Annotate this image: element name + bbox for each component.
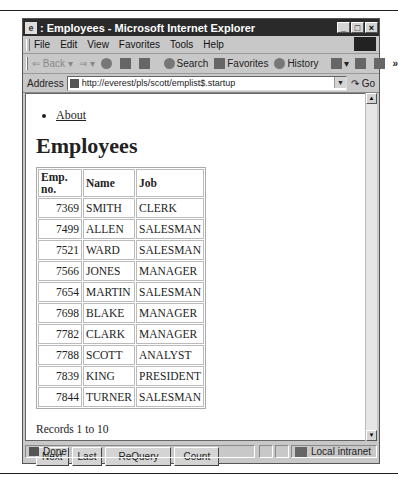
nav-list: About [26, 108, 365, 123]
edit-button[interactable] [374, 58, 387, 69]
search-icon [164, 58, 175, 69]
cell-name: KING [83, 366, 135, 386]
cell-job: ANALYST [136, 345, 204, 365]
table-header-row: Emp. no. Name Job [38, 169, 204, 197]
status-pane-blank [275, 445, 289, 458]
cell-empno: 7369 [38, 198, 82, 218]
cell-job: CLERK [136, 198, 204, 218]
search-button[interactable]: Search [164, 58, 209, 69]
intranet-zone-icon [295, 447, 307, 457]
back-button[interactable]: ⇐ Back ▾ [32, 58, 73, 69]
cell-job: SALESMAN [136, 219, 204, 239]
page-status-icon [29, 447, 39, 456]
table-row: 7698BLAKEMANAGER [38, 303, 204, 323]
cell-empno: 7844 [38, 387, 82, 407]
close-button[interactable]: × [365, 22, 378, 33]
cell-name: SCOTT [83, 345, 135, 365]
page-content: About Employees Emp. no. Name Job 7369SM… [25, 93, 365, 441]
mail-button[interactable]: ▾ [331, 58, 349, 69]
cell-job: MANAGER [136, 303, 204, 323]
status-pane: Done [25, 445, 255, 458]
menu-tools[interactable]: Tools [170, 39, 193, 50]
table-row: 7839KINGPRESIDENT [38, 366, 204, 386]
status-pane-blank [259, 445, 273, 458]
ie-app-icon: e [25, 22, 37, 34]
refresh-button[interactable] [120, 58, 133, 69]
about-link[interactable]: About [56, 108, 86, 122]
records-range-text: Records 1 to 10 [36, 423, 365, 435]
address-url: http://everest/pls/scott/emplist$.startu… [82, 78, 236, 88]
cell-job: SALESMAN [136, 240, 204, 260]
cell-name: ALLEN [83, 219, 135, 239]
page-icon [70, 79, 79, 88]
cell-name: TURNER [83, 387, 135, 407]
address-label: Address [27, 78, 64, 89]
menu-help[interactable]: Help [203, 39, 224, 50]
standard-toolbar: ⇐ Back ▾ ⇒ ▾ Search Favorites History ▾ … [23, 54, 379, 74]
history-icon [274, 58, 285, 69]
address-dropdown-icon[interactable]: ▼ [334, 77, 346, 88]
cell-job: SALESMAN [136, 282, 204, 302]
employees-table: Emp. no. Name Job 7369SMITHCLERK 7499ALL… [36, 167, 206, 409]
print-button[interactable] [355, 58, 368, 69]
nav-item: About [56, 108, 365, 123]
cell-empno: 7566 [38, 261, 82, 281]
table-row: 7369SMITHCLERK [38, 198, 204, 218]
home-button[interactable] [139, 58, 152, 69]
minimize-button[interactable]: _ [337, 22, 350, 33]
table-row: 7499ALLENSALESMAN [38, 219, 204, 239]
cell-job: PRESIDENT [136, 366, 204, 386]
address-input[interactable]: http://everest/pls/scott/emplist$.startu… [67, 76, 347, 91]
menu-favorites[interactable]: Favorites [119, 39, 160, 50]
scroll-down-arrow-icon[interactable]: ▼ [366, 430, 377, 441]
menu-view[interactable]: View [87, 39, 109, 50]
forward-button[interactable]: ⇒ ▾ [79, 58, 95, 69]
menu-edit[interactable]: Edit [60, 39, 77, 50]
mail-icon [331, 58, 342, 69]
cell-empno: 7499 [38, 219, 82, 239]
toolbar-more-chevron-icon[interactable]: » [393, 58, 398, 69]
stop-button[interactable] [101, 58, 114, 69]
maximize-button[interactable]: □ [351, 22, 364, 33]
table-row: 7788SCOTTANALYST [38, 345, 204, 365]
go-button[interactable]: ↷ Go [351, 78, 375, 89]
cell-name: BLAKE [83, 303, 135, 323]
cell-name: SMITH [83, 198, 135, 218]
cell-empno: 7654 [38, 282, 82, 302]
address-bar: Address http://everest/pls/scott/emplist… [23, 74, 379, 93]
cell-empno: 7788 [38, 345, 82, 365]
print-icon [355, 58, 366, 69]
browser-window: e : Employees - Microsoft Internet Explo… [22, 18, 380, 464]
table-row: 7782CLARKMANAGER [38, 324, 204, 344]
zone-text: Local intranet [311, 446, 371, 457]
table-row: 7521WARDSALESMAN [38, 240, 204, 260]
cell-empno: 7698 [38, 303, 82, 323]
windows-logo-throbber-icon [354, 37, 376, 51]
menubar-grip[interactable] [26, 39, 30, 51]
home-icon [139, 58, 150, 69]
column-header-empno: Emp. no. [38, 169, 82, 197]
favorites-button[interactable]: Favorites [214, 58, 268, 69]
title-bar: e : Employees - Microsoft Internet Explo… [23, 19, 379, 36]
stop-icon [101, 58, 112, 69]
cell-job: MANAGER [136, 261, 204, 281]
vertical-scrollbar[interactable]: ▲ ▼ [365, 93, 377, 441]
cell-name: MARTIN [83, 282, 135, 302]
history-button[interactable]: History [274, 58, 318, 69]
column-header-job: Job [136, 169, 204, 197]
top-divider [0, 10, 398, 11]
favorites-icon [214, 58, 225, 69]
scroll-up-arrow-icon[interactable]: ▲ [366, 93, 377, 104]
cell-empno: 7839 [38, 366, 82, 386]
zone-pane: Local intranet [291, 445, 377, 458]
menu-bar: File Edit View Favorites Tools Help [23, 36, 379, 54]
column-header-name: Name [83, 169, 135, 197]
toolbar-grip[interactable] [26, 57, 28, 70]
table-row: 7654MARTINSALESMAN [38, 282, 204, 302]
cell-job: SALESMAN [136, 387, 204, 407]
menu-file[interactable]: File [34, 39, 50, 50]
status-text: Done [43, 446, 67, 457]
edit-icon [374, 58, 385, 69]
cell-name: WARD [83, 240, 135, 260]
page-title: Employees [36, 133, 365, 159]
